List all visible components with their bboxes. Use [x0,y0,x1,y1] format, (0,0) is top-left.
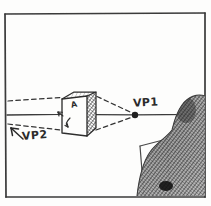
vanishing-point-1-marker [132,112,138,118]
sketch-drawing [0,0,211,206]
perspective-sketch-canvas: VP1 VP2 A [0,0,211,206]
horizon-line [7,114,196,115]
